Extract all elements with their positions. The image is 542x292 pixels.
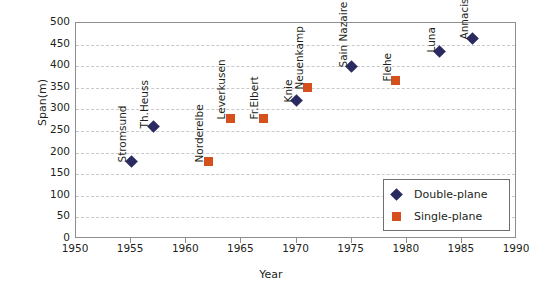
x-axis-tick-mark xyxy=(406,238,407,243)
data-point-label: Flehe xyxy=(381,53,392,82)
x-axis-tick-label: 1960 xyxy=(165,242,205,254)
data-point-label: Luna xyxy=(425,27,436,52)
y-axis-tick-label: 150 xyxy=(34,166,70,178)
x-axis-tick-label: 1975 xyxy=(331,242,371,254)
data-point-marker[interactable] xyxy=(391,76,400,85)
data-point-marker[interactable] xyxy=(204,157,213,166)
x-axis-tick-mark xyxy=(461,238,462,243)
span-vs-year-scatter-chart: Span(m) Year 050100150200250300350400450… xyxy=(0,0,542,292)
x-axis-tick-mark xyxy=(296,238,297,243)
data-point-label: Knie xyxy=(282,79,293,102)
x-axis-title: Year xyxy=(0,268,542,281)
data-point-label: Annacis xyxy=(458,0,469,40)
x-axis-tick-label: 1985 xyxy=(441,242,481,254)
x-axis-tick-label: 1990 xyxy=(496,242,536,254)
data-point-marker[interactable] xyxy=(226,114,235,123)
gridline xyxy=(76,131,515,132)
x-axis-tick-label: 1980 xyxy=(386,242,426,254)
data-point-label: Neuenkamp xyxy=(293,26,304,89)
x-axis-tick-label: 1965 xyxy=(220,242,260,254)
x-axis-tick-label: 1950 xyxy=(55,242,95,254)
legend: Double-plane Single-plane xyxy=(383,179,510,231)
legend-label-single-plane: Single-plane xyxy=(414,210,482,223)
diamond-marker-icon xyxy=(390,188,403,201)
x-axis-tick-mark xyxy=(185,238,186,243)
y-axis-tick-label: 350 xyxy=(34,80,70,92)
x-axis-tick-mark xyxy=(130,238,131,243)
y-axis-tick-label: 300 xyxy=(34,101,70,113)
gridline xyxy=(76,174,515,175)
legend-item-single-plane[interactable]: Single-plane xyxy=(392,209,482,223)
data-point-label: Norderelbe xyxy=(194,105,205,163)
data-point-marker[interactable] xyxy=(259,114,268,123)
y-axis-tick-label: 500 xyxy=(34,15,70,27)
y-axis-tick-label: 450 xyxy=(34,37,70,49)
data-point-label: Stromsund xyxy=(117,106,128,163)
data-point-label: Sain Nazaire xyxy=(337,2,348,68)
x-axis-tick-label: 1970 xyxy=(276,242,316,254)
gridline xyxy=(76,153,515,154)
y-axis-tick-label: 50 xyxy=(34,209,70,221)
legend-label-double-plane: Double-plane xyxy=(414,188,487,201)
data-point-label: Th.Heuss xyxy=(139,80,150,128)
data-point-label: Fr.Elbert xyxy=(249,76,260,119)
x-axis-tick-label: 1955 xyxy=(110,242,150,254)
y-axis-tick-label: 400 xyxy=(34,58,70,70)
legend-item-double-plane[interactable]: Double-plane xyxy=(392,187,487,201)
y-axis-tick-label: 250 xyxy=(34,123,70,135)
x-axis-tick-mark xyxy=(351,238,352,243)
x-axis-tick-mark xyxy=(240,238,241,243)
data-point-label: Leverkusen xyxy=(216,59,227,119)
square-marker-icon xyxy=(392,212,401,221)
y-axis-tick-label: 200 xyxy=(34,145,70,157)
y-axis-tick-label: 100 xyxy=(34,188,70,200)
